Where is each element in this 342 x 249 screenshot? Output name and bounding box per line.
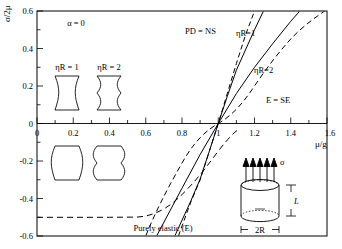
curve-label-etaR-1: ηR=1 (236, 28, 255, 38)
y-tick-label: 0.4 (22, 44, 33, 54)
y-tick-label: -0.4 (20, 194, 34, 204)
x-tick-label: 1.6 (325, 128, 336, 138)
curve-label-purely-elastic: Purely elastic (E) (133, 223, 192, 233)
y-tick-label: 0.2 (22, 81, 33, 91)
alpha-condition-label: α = 0 (67, 18, 85, 28)
cylinder-diameter-label: 2R (255, 225, 265, 235)
inset-upper-label-2: ηR = 2 (97, 62, 120, 72)
curve-label-etaR-2: ηR=2 (254, 65, 273, 75)
x-tick-label: 1.2 (249, 128, 260, 138)
y-axis-label: σ/2μ (2, 5, 12, 22)
y-tick-label: 0.6 (22, 6, 33, 16)
x-tick-label: 0.2 (68, 128, 79, 138)
y-tick-label: -0.6 (20, 231, 33, 241)
x-tick-label: 1.4 (285, 128, 296, 138)
cylinder-stress-label: σ (280, 157, 285, 167)
y-tick-label: 0 (29, 119, 33, 129)
x-tick-label: 0.6 (140, 128, 151, 138)
y-tick-label: -0.2 (20, 156, 33, 166)
inset-upper-label-1: ηR = 1 (55, 62, 78, 72)
x-axis-label: μ/g (315, 139, 327, 149)
x-tick-label: 0 (35, 128, 39, 138)
figure-root: 0 0.2 0.4 0.6 0.8 1 1.2 1.4 1.6 0.6 0.4 … (0, 0, 342, 249)
curve-label-e-se: E = SE (266, 95, 290, 105)
x-tick-label: 0.4 (104, 128, 115, 138)
cylinder-length-label: L (293, 196, 299, 206)
chart-svg: 0 0.2 0.4 0.6 0.8 1 1.2 1.4 1.6 0.6 0.4 … (0, 0, 342, 249)
y-tick-labels: 0.6 0.4 0.2 0 -0.2 -0.4 -0.6 (20, 6, 34, 241)
curve-label-pd-ns: PD = NS (185, 26, 216, 36)
x-tick-label: 0.8 (177, 128, 188, 138)
